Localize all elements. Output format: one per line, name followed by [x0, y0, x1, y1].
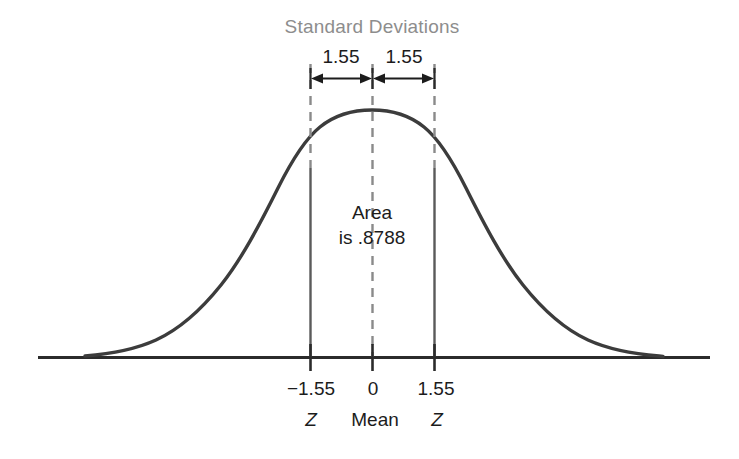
x-tick-label-zero: 0 [368, 379, 379, 398]
axis-name-right-z: Z [431, 410, 443, 429]
span-arrow-left [311, 74, 372, 84]
span-label-right: 1.55 [386, 47, 423, 66]
axis-name-left-z: Z [305, 410, 317, 429]
span-label-left: 1.55 [323, 47, 360, 66]
span-arrow-right [373, 74, 434, 84]
axis-name-mean: Mean [351, 410, 399, 429]
area-annotation-line-2: is .8788 [339, 228, 406, 247]
normal-distribution-figure: Standard Deviations 1.55 1.55 Area is .8… [0, 0, 739, 459]
x-tick-label-negative: −1.55 [287, 379, 335, 398]
chart-title: Standard Deviations [285, 17, 460, 36]
area-annotation-line-1: Area [352, 203, 392, 222]
x-tick-label-positive: 1.55 [418, 379, 455, 398]
